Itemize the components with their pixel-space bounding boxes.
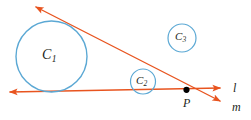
geometry-figure: C1 C2 C3 P l m (0, 0, 251, 120)
line-m (36, 7, 220, 101)
label-line-m: m (232, 101, 241, 113)
label-c1: C1 (42, 48, 56, 62)
figure-canvas (0, 0, 251, 120)
label-c3: C3 (175, 31, 186, 42)
label-line-l: l (233, 82, 236, 94)
label-point-p: P (183, 97, 190, 109)
label-c2: C2 (136, 75, 147, 86)
point-p (183, 87, 189, 93)
